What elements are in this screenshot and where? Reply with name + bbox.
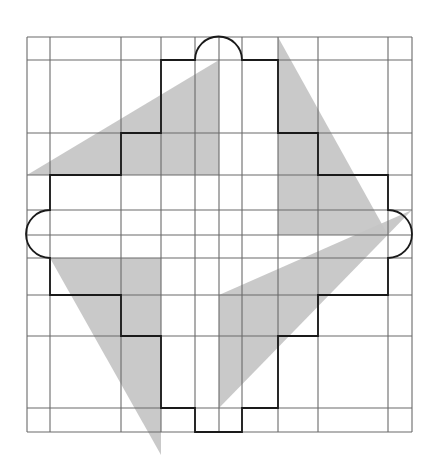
grid-lines xyxy=(27,37,412,432)
triangle-top-left xyxy=(27,60,219,175)
diagram-canvas xyxy=(0,0,435,457)
triangle-bottom-right xyxy=(219,210,412,408)
triangle-bottom-left xyxy=(50,258,161,455)
triangle-top-right xyxy=(278,37,388,235)
pinwheel-cross-diagram xyxy=(0,0,435,457)
